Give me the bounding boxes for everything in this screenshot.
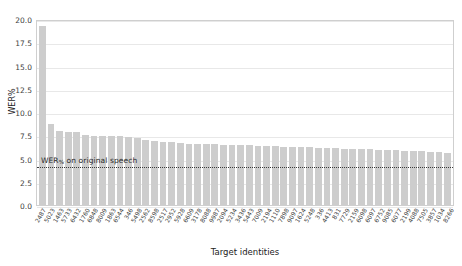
plot-area: WER% on original speech xyxy=(36,20,454,206)
bar xyxy=(56,131,63,205)
bar xyxy=(134,138,141,205)
bar xyxy=(255,146,262,205)
reference-line xyxy=(37,167,453,168)
bar xyxy=(418,151,425,205)
bar-series xyxy=(37,21,453,205)
bar xyxy=(384,150,391,205)
bar xyxy=(272,146,279,205)
bar xyxy=(229,145,236,205)
bar xyxy=(306,147,313,205)
bar xyxy=(324,148,331,205)
reference-line-label: WER% on original speech xyxy=(41,156,137,165)
bar xyxy=(48,124,55,205)
bar xyxy=(211,144,218,205)
y-axis: 0.02.55.07.510.012.515.017.520.0 xyxy=(0,20,36,206)
bar xyxy=(401,151,408,205)
bar xyxy=(220,145,227,205)
bar xyxy=(436,152,443,205)
bar xyxy=(65,132,72,205)
bar xyxy=(393,150,400,205)
bar xyxy=(358,149,365,205)
bar xyxy=(194,144,201,205)
bar xyxy=(73,132,80,205)
bar xyxy=(142,140,149,205)
bar xyxy=(168,142,175,205)
bar xyxy=(39,26,46,205)
bar xyxy=(298,147,305,205)
y-axis-tick: 15.0 xyxy=(15,62,32,71)
bar xyxy=(82,135,89,205)
y-axis-tick: 0.0 xyxy=(20,202,32,211)
bar xyxy=(375,150,382,205)
bar xyxy=(332,148,339,205)
wer-bar-chart: 0.02.55.07.510.012.515.017.520.0 WER% WE… xyxy=(0,0,462,266)
bar xyxy=(203,144,210,205)
bar xyxy=(349,149,356,205)
bar xyxy=(444,153,451,205)
bar xyxy=(280,147,287,205)
bar xyxy=(151,141,158,205)
y-axis-tick: 12.5 xyxy=(15,85,32,94)
y-axis-tick: 5.0 xyxy=(20,155,32,164)
bar xyxy=(341,149,348,205)
bar xyxy=(177,143,184,205)
bar xyxy=(315,148,322,205)
x-axis-label: Target identities xyxy=(36,247,454,257)
bar xyxy=(125,137,132,205)
bar xyxy=(91,136,98,205)
bar xyxy=(289,147,296,205)
bar xyxy=(246,145,253,205)
y-axis-tick: 17.5 xyxy=(15,39,32,48)
y-axis-label: WER% xyxy=(8,72,17,132)
bar xyxy=(117,136,124,205)
y-axis-tick: 7.5 xyxy=(20,132,32,141)
bar xyxy=(427,152,434,205)
bar xyxy=(263,146,270,205)
bar xyxy=(367,149,374,205)
y-axis-tick: 20.0 xyxy=(15,16,32,25)
bar xyxy=(99,136,106,205)
y-axis-tick: 2.5 xyxy=(20,178,32,187)
bar xyxy=(237,145,244,205)
y-axis-tick: 10.0 xyxy=(15,109,32,118)
bar xyxy=(186,144,193,205)
bar xyxy=(160,142,167,205)
bar xyxy=(108,136,115,205)
bar xyxy=(410,151,417,205)
